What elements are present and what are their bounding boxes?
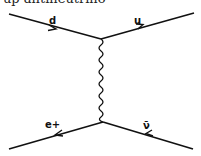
- w-boson-propagator: [99, 39, 103, 122]
- label-e-plus: e+: [45, 119, 60, 130]
- u-quark-line: [101, 13, 194, 39]
- label-antineutrino: ν̄: [143, 120, 150, 131]
- label-u: u: [134, 15, 141, 26]
- arrow-icon: [55, 130, 63, 136]
- feynman-diagram: d u e+ ν̄: [0, 0, 201, 156]
- label-d: d: [49, 15, 56, 26]
